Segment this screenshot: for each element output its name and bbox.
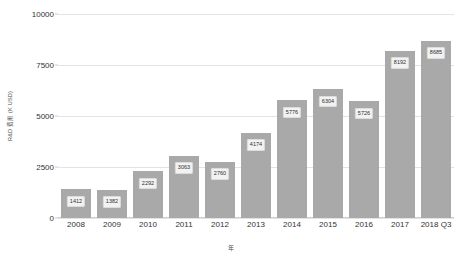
bar-value-label: 6304: [319, 96, 337, 108]
x-tick-label: 2009: [103, 220, 121, 229]
x-axis-ticks: 2008200920102011201220132014201520162017…: [58, 220, 454, 236]
y-tick-label: 0: [50, 214, 54, 223]
bar-group[interactable]: 1412: [61, 189, 92, 218]
bar-group[interactable]: 6304: [313, 89, 344, 218]
bar[interactable]: [421, 41, 452, 218]
x-tick-label: 2010: [139, 220, 157, 229]
bar[interactable]: [385, 51, 416, 218]
x-tick-label: 2013: [247, 220, 265, 229]
x-tick-label: 2018 Q3: [421, 220, 452, 229]
bar[interactable]: [313, 89, 344, 218]
bar-group[interactable]: 3063: [169, 156, 200, 218]
bar-group[interactable]: 1382: [97, 190, 128, 218]
y-tick-label: 5000: [36, 112, 54, 121]
bar-value-label: 8192: [391, 57, 409, 69]
bar-value-label: 5776: [283, 107, 301, 119]
bar-group[interactable]: 5776: [277, 100, 308, 218]
bar-value-label: 3063: [175, 162, 193, 174]
bar-group[interactable]: 4174: [241, 133, 272, 218]
bar-value-label: 2292: [139, 178, 157, 190]
y-axis-title: R&D 费用 (K USD): [0, 0, 20, 232]
y-tick-label: 7500: [36, 61, 54, 70]
x-tick-label: 2008: [67, 220, 85, 229]
bar-group[interactable]: 8192: [385, 51, 416, 218]
bar-value-label: 8685: [427, 47, 445, 59]
bar-group[interactable]: 2292: [133, 171, 164, 218]
bar-value-label: 1412: [67, 196, 85, 208]
bar-chart: R&D 费用 (K USD) 025005000750010000 141213…: [0, 0, 462, 265]
x-tick-label: 2016: [355, 220, 373, 229]
bar-group[interactable]: 8685: [421, 41, 452, 218]
x-tick-label: 2017: [391, 220, 409, 229]
x-tick-label: 2011: [175, 220, 192, 229]
bar-value-label: 4174: [247, 139, 265, 151]
y-axis-title-text: R&D 费用 (K USD): [6, 91, 14, 141]
bars-layer: 1412138222923063276041745776630457268192…: [58, 14, 454, 218]
bar-value-label: 5726: [355, 108, 373, 120]
y-tick-label: 10000: [32, 10, 54, 19]
bar-group[interactable]: 2760: [205, 162, 236, 218]
bar-value-label: 1382: [103, 196, 121, 208]
y-axis-ticks: 025005000750010000: [18, 0, 58, 232]
plot-area: 1412138222923063276041745776630457268192…: [58, 14, 454, 218]
x-tick-label: 2014: [283, 220, 301, 229]
x-axis-title: 年: [0, 243, 462, 252]
bar-value-label: 2760: [211, 168, 229, 180]
bar-group[interactable]: 5726: [349, 101, 380, 218]
gridline: [58, 218, 454, 219]
x-tick-label: 2015: [319, 220, 337, 229]
x-tick-label: 2012: [211, 220, 229, 229]
y-tick-label: 2500: [36, 163, 54, 172]
